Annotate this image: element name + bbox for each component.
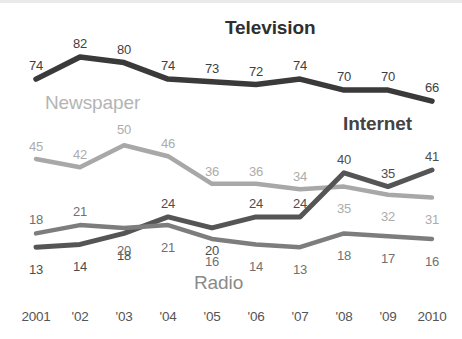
value-label-television-02: 82 — [72, 37, 87, 50]
value-label-internet-02: 14 — [72, 260, 87, 273]
value-label-radio-2001: 18 — [28, 213, 43, 226]
value-label-television-08: 70 — [336, 70, 351, 83]
value-label-internet-06: 24 — [248, 197, 263, 210]
series-line-newspaper — [36, 145, 432, 197]
value-label-internet-04: 24 — [160, 197, 175, 210]
value-label-radio-03: 20 — [116, 244, 131, 257]
value-label-internet-08: 40 — [336, 153, 351, 166]
value-label-television-2001: 74 — [28, 59, 43, 72]
value-label-internet-07: 24 — [292, 197, 307, 210]
value-label-radio-2010: 16 — [424, 255, 439, 268]
value-label-radio-08: 18 — [336, 249, 351, 262]
series-label-radio: Radio — [194, 272, 243, 294]
value-label-television-04: 74 — [160, 59, 175, 72]
value-label-internet-2010: 41 — [424, 150, 439, 163]
x-tick-2010: 2010 — [408, 309, 456, 324]
value-label-television-2010: 66 — [424, 81, 439, 94]
value-label-television-07: 74 — [292, 59, 307, 72]
value-label-internet-09: 35 — [380, 167, 395, 180]
series-label-internet: Internet — [343, 113, 412, 135]
value-label-newspaper-05: 36 — [204, 165, 219, 178]
x-tick-03: '03 — [100, 309, 148, 324]
value-label-radio-04: 21 — [160, 241, 175, 254]
series-line-radio — [36, 225, 432, 247]
x-tick-2001: 2001 — [12, 309, 60, 324]
value-label-television-09: 70 — [380, 70, 395, 83]
value-label-newspaper-07: 34 — [292, 170, 307, 183]
value-label-newspaper-04: 46 — [160, 137, 175, 150]
value-label-television-05: 73 — [204, 62, 219, 75]
series-label-newspaper: Newspaper — [45, 92, 140, 114]
series-label-television: Television — [225, 17, 316, 39]
value-label-newspaper-08: 35 — [336, 202, 351, 215]
value-label-radio-02: 21 — [72, 205, 87, 218]
value-label-newspaper-03: 50 — [116, 123, 131, 136]
value-label-newspaper-06: 36 — [248, 165, 263, 178]
x-tick-07: '07 — [276, 309, 324, 324]
value-label-newspaper-2001: 45 — [28, 140, 43, 153]
value-label-television-06: 72 — [248, 65, 263, 78]
value-label-radio-05: 16 — [204, 255, 219, 268]
value-label-television-03: 80 — [116, 43, 131, 56]
x-tick-06: '06 — [232, 309, 280, 324]
value-label-radio-09: 17 — [380, 252, 395, 265]
value-label-newspaper-2010: 31 — [424, 213, 439, 226]
x-tick-09: '09 — [364, 309, 412, 324]
x-tick-05: '05 — [188, 309, 236, 324]
chart-container: 7482807473727470706645425046363634353231… — [0, 0, 462, 339]
value-label-radio-07: 13 — [292, 263, 307, 276]
x-tick-08: '08 — [320, 309, 368, 324]
x-tick-02: '02 — [56, 309, 104, 324]
value-label-internet-2001: 13 — [28, 263, 43, 276]
x-tick-04: '04 — [144, 309, 192, 324]
value-label-radio-06: 14 — [248, 260, 263, 273]
value-label-newspaper-02: 42 — [72, 148, 87, 161]
value-label-newspaper-09: 32 — [380, 210, 395, 223]
